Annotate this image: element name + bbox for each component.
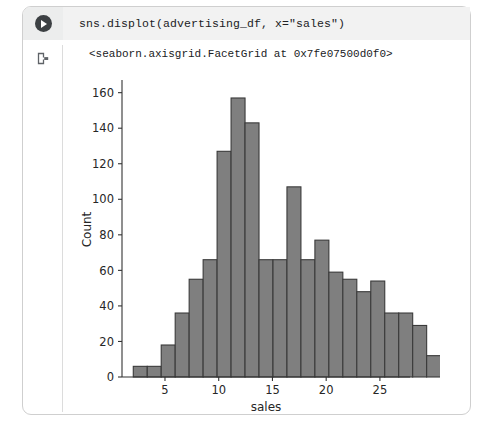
histogram-bar [161, 345, 175, 377]
x-tick-label: 10 [211, 383, 226, 397]
x-axis-label: sales [251, 400, 282, 412]
histogram-bar [217, 151, 231, 377]
run-cell-button-container[interactable] [23, 7, 63, 40]
play-icon[interactable] [35, 15, 52, 32]
histogram-bar [245, 123, 259, 377]
histogram-bar [273, 260, 287, 377]
y-tick-label: 140 [92, 121, 114, 135]
x-tick-label: 25 [373, 383, 388, 397]
histogram-bar [147, 366, 161, 377]
x-tick-label: 5 [161, 383, 168, 397]
histogram-bar [413, 325, 427, 377]
histogram-bar [231, 98, 245, 377]
histogram-bar [203, 260, 217, 377]
histogram-bar [399, 313, 413, 377]
histogram-bar [189, 279, 203, 377]
cell-gutter-divider [62, 45, 63, 412]
y-tick-label: 40 [99, 299, 114, 313]
code-cell-output-row: <seaborn.axisgrid.FacetGrid at 0x7fe0750… [23, 48, 463, 70]
histogram-bar [343, 279, 357, 377]
histogram-bar [175, 313, 189, 377]
code-text: sns.displot(advertising_df, x="sales") [79, 17, 345, 30]
y-tick-label: 80 [99, 228, 114, 242]
histogram-bar [371, 281, 385, 377]
histogram-bar [329, 272, 343, 377]
x-tick-label: 20 [319, 383, 334, 397]
histogram-bar [133, 366, 147, 377]
histogram-bar [427, 356, 440, 377]
histogram-figure: 020406080100120140160510152025salesCount [70, 72, 440, 412]
y-tick-label: 0 [107, 370, 114, 384]
histogram-bar [357, 292, 371, 377]
histogram-bar [385, 313, 399, 377]
histogram-plot: 020406080100120140160510152025salesCount [70, 72, 440, 412]
code-cell-input-row: sns.displot(advertising_df, x="sales") [23, 7, 470, 40]
y-tick-label: 60 [99, 264, 114, 278]
y-tick-label: 120 [92, 157, 114, 171]
output-text: <seaborn.axisgrid.FacetGrid at 0x7fe0750… [63, 48, 393, 60]
x-tick-label: 15 [265, 383, 280, 397]
y-tick-label: 160 [92, 86, 114, 100]
output-cell-icon[interactable] [23, 48, 63, 68]
y-tick-label: 100 [92, 192, 114, 206]
y-tick-label: 20 [99, 335, 114, 349]
code-editor[interactable]: sns.displot(advertising_df, x="sales") [63, 7, 470, 40]
screenshot-root: sns.displot(advertising_df, x="sales") <… [0, 0, 493, 429]
y-axis-label: Count [80, 211, 94, 247]
histogram-bar [301, 260, 315, 377]
histogram-bar [315, 240, 329, 377]
histogram-bar [259, 260, 273, 377]
histogram-bar [287, 187, 301, 377]
play-triangle-icon [41, 20, 47, 28]
